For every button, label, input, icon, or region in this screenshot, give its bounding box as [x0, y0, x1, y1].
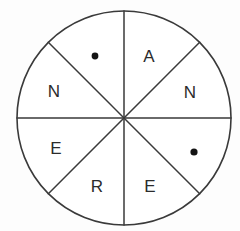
dot-marker-top-left: [92, 53, 99, 60]
sector-label-bottom-left: R: [91, 177, 103, 196]
spinner-wheel-svg: A N E R E N: [0, 0, 240, 231]
dot-marker-right-lower: [190, 148, 197, 155]
sector-label-right-upper: N: [184, 83, 196, 102]
sector-label-left-upper: N: [48, 82, 60, 101]
sector-dividers: [17, 11, 231, 225]
sector-label-left-lower: E: [50, 139, 61, 158]
sector-label-top-right: A: [143, 47, 155, 66]
spinner-figure: A N E R E N: [0, 0, 240, 231]
sector-label-bottom-right: E: [144, 177, 155, 196]
